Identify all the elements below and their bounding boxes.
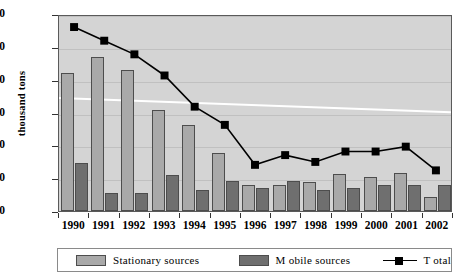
x-tick-label: 1999 bbox=[331, 219, 361, 231]
x-tick-mark bbox=[119, 213, 120, 218]
x-tick-mark bbox=[240, 213, 241, 218]
total-marker bbox=[100, 37, 108, 45]
x-tick-label: 1994 bbox=[179, 219, 209, 231]
x-tick-mark bbox=[270, 213, 271, 218]
x-tick-label: 1991 bbox=[88, 219, 118, 231]
x-tick-mark bbox=[391, 213, 392, 218]
x-tick-mark bbox=[452, 213, 453, 218]
total-line-series bbox=[59, 16, 451, 211]
y-tick-label: 2000 bbox=[0, 73, 5, 85]
total-marker bbox=[341, 148, 349, 156]
total-marker bbox=[70, 23, 78, 31]
x-tick-mark bbox=[210, 213, 211, 218]
y-tick-label: 2500 bbox=[0, 40, 5, 52]
x-tick-label: 1990 bbox=[58, 219, 88, 231]
x-tick-label: 1996 bbox=[240, 219, 270, 231]
x-axis-tick-labels: 1990199119921993199419951996199719981999… bbox=[58, 219, 452, 239]
legend-label-stationary: Stationary sources bbox=[113, 254, 199, 266]
y-tick-label: 500 bbox=[0, 171, 5, 183]
legend-item-stationary-sources: Stationary sources bbox=[76, 254, 199, 266]
y-axis-title: thousand tons bbox=[16, 34, 27, 174]
bar-swatch-dark-icon bbox=[239, 255, 269, 266]
legend-item-mobile-sources: M obile sources bbox=[239, 254, 351, 266]
total-marker bbox=[130, 50, 138, 58]
x-tick-mark bbox=[149, 213, 150, 218]
total-marker bbox=[221, 121, 229, 129]
total-marker bbox=[372, 148, 380, 156]
x-tick-mark bbox=[422, 213, 423, 218]
total-marker bbox=[311, 158, 319, 166]
legend-label-total: T otal bbox=[423, 254, 451, 266]
total-marker bbox=[251, 161, 259, 169]
legend-item-total: T otal bbox=[383, 254, 451, 266]
x-tick-mark bbox=[179, 213, 180, 218]
y-tick-label: 1000 bbox=[0, 138, 5, 150]
x-tick-label: 1995 bbox=[210, 219, 240, 231]
x-tick-label: 2002 bbox=[422, 219, 452, 231]
x-tick-label: 1998 bbox=[300, 219, 330, 231]
y-tick-label: 0 bbox=[0, 204, 5, 216]
x-tick-mark bbox=[361, 213, 362, 218]
x-tick-mark bbox=[331, 213, 332, 218]
total-polyline bbox=[74, 27, 436, 170]
x-tick-label: 1992 bbox=[119, 219, 149, 231]
x-tick-label: 1997 bbox=[270, 219, 300, 231]
chart-container: thousand tons 300025002000150010005000 1… bbox=[0, 0, 467, 278]
total-marker bbox=[281, 151, 289, 159]
total-marker bbox=[191, 103, 199, 111]
x-tick-mark bbox=[58, 213, 59, 218]
x-tick-label: 2000 bbox=[361, 219, 391, 231]
x-tick-mark bbox=[300, 213, 301, 218]
total-marker bbox=[402, 143, 410, 151]
y-tick-label: 3000 bbox=[0, 7, 5, 19]
x-tick-mark bbox=[88, 213, 89, 218]
plot-area bbox=[58, 15, 452, 212]
total-marker bbox=[432, 166, 440, 174]
bar-swatch-light-icon bbox=[76, 255, 106, 266]
legend-label-mobile: M obile sources bbox=[276, 254, 351, 266]
y-tick-label: 1500 bbox=[0, 106, 5, 118]
x-tick-label: 2001 bbox=[391, 219, 421, 231]
x-tick-label: 1993 bbox=[149, 219, 179, 231]
chart-legend: Stationary sources M obile sources T ota… bbox=[57, 248, 452, 272]
total-marker bbox=[161, 72, 169, 80]
line-marker-swatch-icon bbox=[383, 256, 417, 265]
